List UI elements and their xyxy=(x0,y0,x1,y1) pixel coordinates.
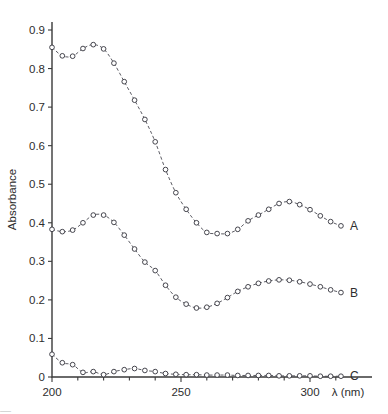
data-point xyxy=(70,228,75,233)
data-point xyxy=(339,224,344,229)
series-b: B xyxy=(50,213,358,311)
page-text-sliver-text: — xyxy=(0,406,388,414)
data-point xyxy=(91,213,96,218)
data-point xyxy=(153,268,158,273)
y-axis-tick-label: 0.7 xyxy=(29,101,45,113)
data-point xyxy=(184,372,189,377)
data-point xyxy=(266,279,271,284)
x-axis-title: λ (nm) xyxy=(332,386,365,398)
data-point xyxy=(297,373,302,378)
data-point xyxy=(60,229,65,234)
data-point xyxy=(101,213,106,218)
data-point xyxy=(173,372,178,377)
data-point xyxy=(184,207,189,212)
data-point xyxy=(287,278,292,283)
data-point xyxy=(246,373,251,378)
data-point xyxy=(143,260,148,265)
page-text-sliver: — xyxy=(0,406,388,414)
data-point xyxy=(318,374,323,379)
data-point xyxy=(112,61,117,66)
data-point xyxy=(339,290,344,295)
data-point xyxy=(112,369,117,374)
data-point xyxy=(184,302,189,307)
data-point xyxy=(297,279,302,284)
data-point xyxy=(122,79,127,84)
data-point xyxy=(112,220,117,225)
data-point xyxy=(225,231,230,236)
data-point xyxy=(318,213,323,218)
data-point xyxy=(256,281,261,286)
data-point xyxy=(215,301,220,306)
data-point xyxy=(173,295,178,300)
data-point xyxy=(215,231,220,236)
y-axis-tick-label: 0.5 xyxy=(29,178,45,190)
y-axis-tick-label: 0.1 xyxy=(29,332,45,344)
data-point xyxy=(153,369,158,374)
data-point xyxy=(277,373,282,378)
data-point xyxy=(194,306,199,311)
data-point xyxy=(101,47,106,52)
figure-container: 00.10.20.30.40.50.60.70.80.9200250300Abs… xyxy=(0,0,388,414)
series-label-a: A xyxy=(350,219,358,233)
data-point xyxy=(235,227,240,232)
data-point xyxy=(60,360,65,365)
data-point xyxy=(204,230,209,235)
data-point xyxy=(256,373,261,378)
data-point xyxy=(328,374,333,379)
y-axis-tick-label: 0.2 xyxy=(29,294,45,306)
data-point xyxy=(153,139,158,144)
data-point xyxy=(215,373,220,378)
data-point xyxy=(204,305,209,310)
series-line-b xyxy=(52,214,341,308)
data-point xyxy=(163,371,168,376)
data-point xyxy=(318,284,323,289)
data-point xyxy=(277,277,282,282)
y-axis-tick-label: 0.9 xyxy=(29,24,45,36)
data-point xyxy=(132,247,137,252)
y-axis-tick-label: 0.6 xyxy=(29,140,45,152)
y-axis-title: Absorbance xyxy=(6,169,18,230)
data-point xyxy=(266,373,271,378)
data-point xyxy=(50,45,55,50)
y-axis-tick-label: 0.8 xyxy=(29,63,45,75)
data-point xyxy=(81,370,86,375)
x-axis-tick-label: 200 xyxy=(42,386,61,398)
x-axis-tick-label: 300 xyxy=(300,386,319,398)
y-axis-tick-label: 0 xyxy=(39,371,45,383)
y-axis-tick-label: 0.3 xyxy=(29,255,45,267)
data-point xyxy=(60,53,65,58)
data-point xyxy=(246,284,251,289)
data-point xyxy=(50,227,55,232)
data-point xyxy=(246,219,251,224)
data-point xyxy=(194,220,199,225)
data-point xyxy=(122,233,127,238)
data-point xyxy=(308,373,313,378)
data-point xyxy=(235,373,240,378)
data-point xyxy=(163,167,168,172)
data-point xyxy=(204,373,209,378)
data-point xyxy=(132,98,137,103)
data-point xyxy=(328,219,333,224)
series-label-b: B xyxy=(350,286,358,300)
data-point xyxy=(287,199,292,204)
data-point xyxy=(287,373,292,378)
absorbance-spectrum-chart: 00.10.20.30.40.50.60.70.80.9200250300Abs… xyxy=(0,0,388,414)
data-point xyxy=(256,213,261,218)
series-c: C xyxy=(50,352,359,383)
data-point xyxy=(194,372,199,377)
data-point xyxy=(277,201,282,206)
data-point xyxy=(328,288,333,293)
data-point xyxy=(163,283,168,288)
data-point xyxy=(173,190,178,195)
data-point xyxy=(91,42,96,47)
data-point xyxy=(308,207,313,212)
data-point xyxy=(143,117,148,122)
data-point xyxy=(70,54,75,59)
data-point xyxy=(297,202,302,207)
data-point xyxy=(308,282,313,287)
data-point xyxy=(91,369,96,374)
data-point xyxy=(70,362,75,367)
axis-frame xyxy=(52,22,372,377)
data-point xyxy=(225,295,230,300)
x-axis-tick-label: 250 xyxy=(171,386,190,398)
